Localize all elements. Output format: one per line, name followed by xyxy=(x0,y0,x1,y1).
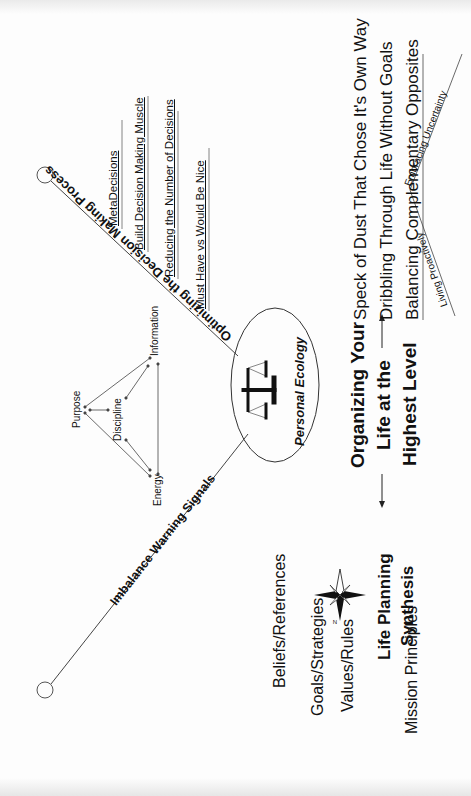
optimizing-item: MetaDecisions xyxy=(108,151,120,226)
compass-north-label: N xyxy=(333,619,337,625)
triangle-information: Information xyxy=(150,306,160,356)
center-label: Personal Ecology xyxy=(293,337,306,446)
life-planning-item: Goals/Strategies xyxy=(310,598,326,716)
life-planning-item: Values/Rules xyxy=(340,619,356,712)
life-planning-item: Mission Principles xyxy=(404,606,420,734)
mind-map-canvas: Optimizing the Decision Making Process M… xyxy=(0,0,471,796)
imbalance-end-circle xyxy=(37,682,53,698)
triangle-purpose: Purpose xyxy=(72,391,82,428)
organizing-title-line: Highest Level xyxy=(400,342,419,466)
organizing-title-line: Life at the xyxy=(374,360,393,450)
organizing-item: Speck of Dust That Chose It's Own Way xyxy=(352,18,369,320)
optimizing-item: Must Have vs Would Be Nice xyxy=(195,160,207,309)
optimizing-item: Reducing the Number of Decisions xyxy=(164,99,176,277)
organizing-title-line: Organizing Your xyxy=(348,322,367,468)
triangle-discipline: Discipline xyxy=(113,398,123,441)
life-planning-item: Beliefs/References xyxy=(272,554,288,688)
scales-icon xyxy=(242,361,276,419)
triangle-energy: Energy xyxy=(153,474,163,506)
organizing-item: Dribbling Through Life Without Goals xyxy=(378,42,395,320)
life-planning-title-line: Life Planning xyxy=(376,553,393,660)
optimizing-item: Build Decision Making Muscle xyxy=(134,97,146,250)
